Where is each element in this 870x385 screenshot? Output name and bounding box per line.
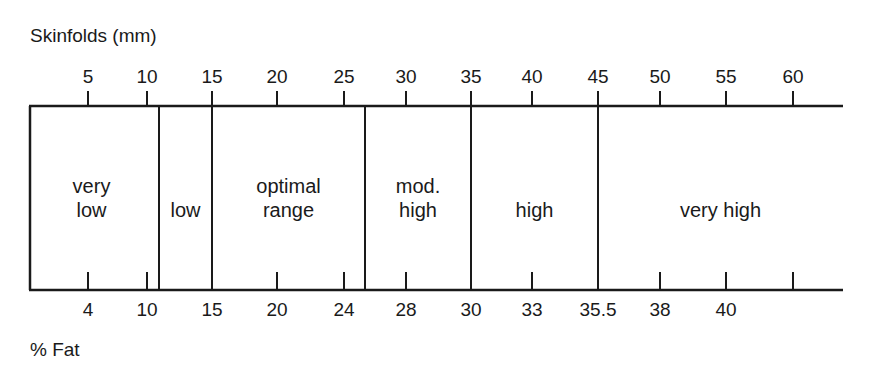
top-tick-label: 35	[460, 67, 481, 86]
bottom-tick-label: 30	[460, 300, 481, 319]
bottom-tick-label: 33	[521, 300, 542, 319]
bottom-tick-label: 4	[83, 300, 94, 319]
top-tick-label: 15	[201, 67, 222, 86]
top-tick-label: 10	[136, 67, 157, 86]
top-tick-label: 50	[649, 67, 670, 86]
top-tick-label: 60	[782, 67, 803, 86]
bottom-tick-label: 35.5	[580, 300, 617, 319]
top-tick-label: 30	[395, 67, 416, 86]
bottom-tick-label: 24	[333, 300, 354, 319]
top-tick-label: 25	[333, 67, 354, 86]
top-axis-title: Skinfolds (mm)	[30, 26, 157, 45]
top-tick-label: 40	[521, 67, 542, 86]
zone-label: very high	[680, 198, 761, 222]
bottom-tick-label: 20	[266, 300, 287, 319]
top-tick-label: 20	[266, 67, 287, 86]
zone-label: optimal range	[256, 174, 320, 222]
skinfold-body-fat-chart: Skinfolds (mm) % Fat 5101520253035404550…	[0, 0, 870, 385]
bottom-tick-label: 10	[136, 300, 157, 319]
zone-label: low	[170, 198, 200, 222]
bottom-tick-label: 38	[649, 300, 670, 319]
top-tick-label: 55	[715, 67, 736, 86]
bottom-axis-title: % Fat	[30, 340, 80, 359]
top-tick-label: 45	[587, 67, 608, 86]
bottom-tick-label: 15	[201, 300, 222, 319]
zone-label: high	[516, 198, 554, 222]
bottom-tick-label: 28	[395, 300, 416, 319]
top-tick-label: 5	[83, 67, 94, 86]
bottom-tick-label: 40	[715, 300, 736, 319]
zone-label: very low	[73, 174, 111, 222]
zone-label: mod. high	[396, 174, 440, 222]
